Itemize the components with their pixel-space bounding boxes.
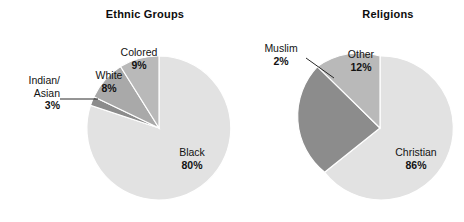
slice-label-muslim: Muslim 2%: [254, 42, 308, 67]
chart-religions: Religions: [262, 0, 464, 222]
slice-label-white-name: White: [86, 69, 132, 82]
slice-label-white: White 8%: [86, 69, 132, 94]
slice-label-christian-pct: 86%: [381, 159, 451, 172]
pie-charts-figure: Ethnic Groups Religions Black 80% Colore…: [0, 0, 464, 222]
slice-label-other: Other 12%: [336, 48, 386, 73]
chart-title-religions: Religions: [262, 8, 464, 20]
slice-label-other-pct: 12%: [336, 61, 386, 74]
slice-label-colored-name: Colored: [110, 46, 168, 59]
slice-label-black: Black 80%: [163, 146, 221, 171]
slice-label-christian-name: Christian: [381, 146, 451, 159]
slice-label-other-name: Other: [336, 48, 386, 61]
slice-label-black-pct: 80%: [163, 159, 221, 172]
slice-label-black-name: Black: [163, 146, 221, 159]
slice-label-white-pct: 8%: [86, 82, 132, 95]
slice-label-muslim-pct: 2%: [254, 55, 308, 68]
chart-title-ethnic-groups: Ethnic Groups: [0, 8, 262, 20]
slice-label-indian-asian-name-line2: Asian: [2, 87, 60, 100]
slice-label-indian-asian-name-line1: Indian/: [2, 74, 60, 87]
slice-label-muslim-name: Muslim: [254, 42, 308, 55]
slice-label-indian-asian-pct: 3%: [2, 99, 60, 112]
slice-label-christian: Christian 86%: [381, 146, 451, 171]
slice-label-colored: Colored 9%: [110, 46, 168, 71]
slice-label-indian-asian: Indian/ Asian 3%: [2, 74, 60, 112]
